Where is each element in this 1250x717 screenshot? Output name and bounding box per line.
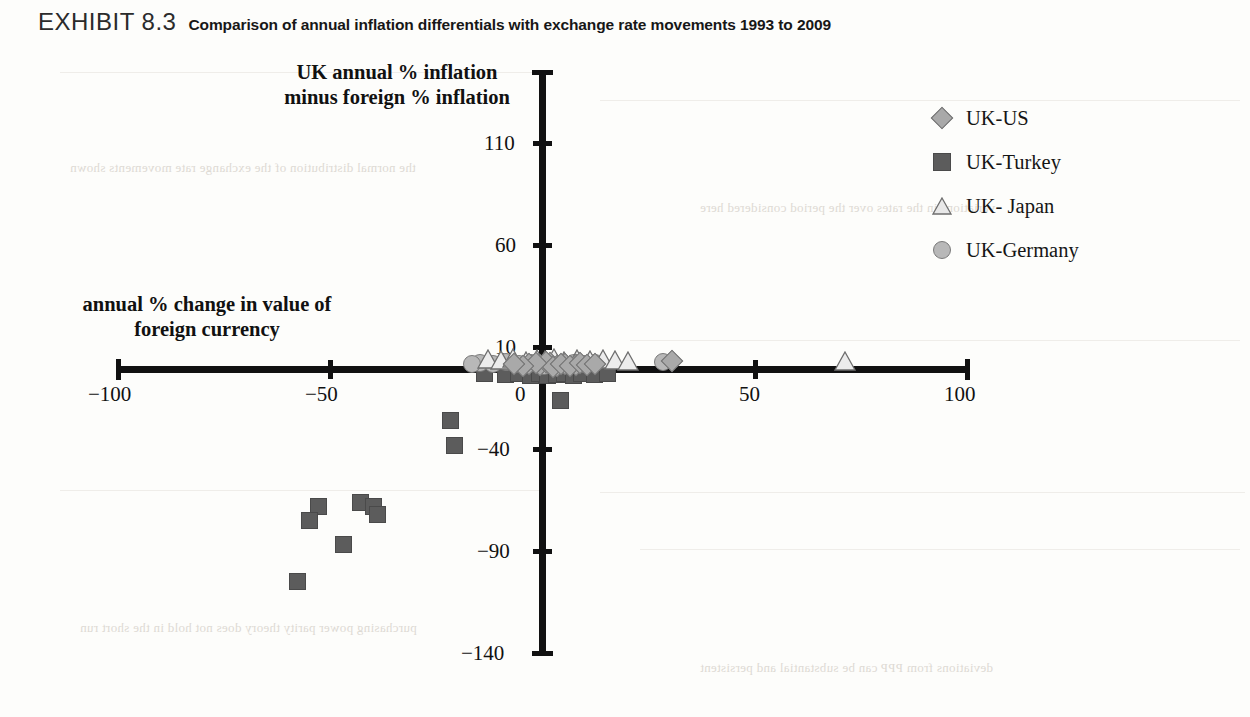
x-tick-label-100: 100 (944, 382, 976, 407)
x-tick-label-minus100: −100 (88, 382, 131, 407)
y-tick-m90 (533, 549, 552, 554)
circle-marker-icon (930, 238, 954, 262)
y-axis-title-line1: UK annual % inflation (296, 61, 497, 83)
x-axis-title-line1: annual % change in value of (83, 293, 332, 315)
x-axis-title-line2: foreign currency (134, 318, 280, 340)
data-point-square (442, 412, 459, 429)
square-marker-icon (930, 150, 954, 174)
y-tick-110 (533, 141, 552, 146)
y-tick-label-60: 60 (495, 233, 516, 258)
triangle-marker-icon (930, 194, 954, 218)
x-tick-label-zero: 0 (515, 382, 526, 407)
legend-label-uk-japan: UK- Japan (966, 195, 1054, 218)
legend-label-uk-us: UK-US (966, 107, 1029, 130)
legend-item-uk-japan[interactable]: UK- Japan (930, 184, 1079, 228)
x-tick-50 (753, 360, 758, 379)
y-tick-label-m140: −140 (461, 641, 504, 666)
legend-label-uk-germany: UK-Germany (966, 239, 1079, 262)
legend-label-uk-turkey: UK-Turkey (966, 151, 1061, 174)
y-tick-label-110: 110 (484, 131, 515, 156)
y-axis-title-line2: minus foreign % inflation (284, 86, 510, 108)
data-point-triangle (617, 351, 639, 375)
data-point-square (446, 437, 463, 454)
y-tick-m40 (533, 447, 552, 452)
x-tick-label-minus50: −50 (305, 382, 338, 407)
x-tick-minus50 (328, 360, 333, 379)
x-axis-left-cap (116, 359, 121, 380)
triangle-svg (932, 197, 952, 215)
y-tick-m140 (533, 651, 552, 656)
x-tick-label-50: 50 (739, 382, 760, 407)
legend-item-uk-us[interactable]: UK-US (930, 96, 1079, 140)
data-point-triangle (834, 351, 856, 375)
data-point-square (301, 512, 318, 529)
data-point-square (289, 573, 306, 590)
diamond-marker-icon (930, 106, 954, 130)
legend-item-uk-turkey[interactable]: UK-Turkey (930, 140, 1079, 184)
legend-item-uk-germany[interactable]: UK-Germany (930, 228, 1079, 272)
y-axis-top-cap (532, 70, 553, 75)
y-tick-60 (533, 243, 552, 248)
data-point-square (369, 506, 386, 523)
y-tick-label-m40: −40 (477, 437, 510, 462)
data-point-square (552, 392, 569, 409)
chart-legend: UK-US UK-Turkey UK- Japan UK-Germany (930, 96, 1079, 272)
x-axis-right-cap (965, 359, 970, 380)
data-point-square (335, 536, 352, 553)
y-tick-label-m90: −90 (477, 539, 510, 564)
x-axis-title: annual % change in value of foreign curr… (62, 292, 352, 341)
y-axis-title: UK annual % inflation minus foreign % in… (262, 60, 532, 109)
